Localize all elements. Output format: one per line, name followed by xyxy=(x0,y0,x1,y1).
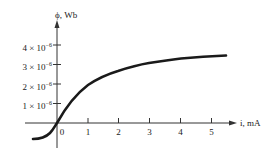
y-tick-label-4: 4 × 10−6 xyxy=(23,40,52,53)
y-axis-title: ϕ, Wb xyxy=(55,10,77,20)
x-axis-title: i, mA xyxy=(240,118,261,128)
y-axis-arrow-icon xyxy=(55,20,60,28)
x-tick-label-4: 4 xyxy=(176,127,186,137)
x-tick-label-5: 5 xyxy=(207,127,217,137)
x-tick-label-1: 1 xyxy=(83,127,93,137)
x-tick-label-2: 2 xyxy=(114,127,124,137)
x-ticks xyxy=(88,118,212,123)
y-tick-label-2: 2 × 10−6 xyxy=(23,79,52,92)
y-tick-label-3: 3 × 10−6 xyxy=(23,59,52,72)
x-axis-arrow-icon xyxy=(229,121,237,126)
y-tick-label-1: 1 × 10−6 xyxy=(23,98,52,111)
x-tick-label-0: 0 xyxy=(57,127,67,137)
chart-canvas xyxy=(0,0,273,151)
x-tick-label-3: 3 xyxy=(145,127,155,137)
